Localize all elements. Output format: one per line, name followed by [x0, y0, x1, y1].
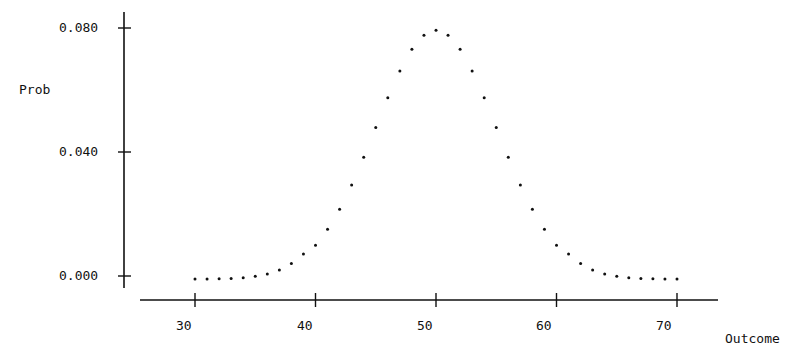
x-axis-label: Outcome — [725, 331, 780, 346]
dot-plot — [0, 0, 803, 360]
x-tick-label-30: 30 — [176, 318, 192, 333]
x-tick-label-70: 70 — [656, 318, 672, 333]
x-tick-label-50: 50 — [417, 318, 433, 333]
x-tick-label-60: 60 — [536, 318, 552, 333]
y-tick-label-0.000: 0.000 — [59, 268, 98, 283]
y-axis-label: Prob — [19, 82, 50, 97]
data-points — [194, 29, 679, 281]
y-tick-label-0.080: 0.080 — [59, 20, 98, 35]
x-tick-label-40: 40 — [297, 318, 313, 333]
y-tick-label-0.040: 0.040 — [59, 144, 98, 159]
